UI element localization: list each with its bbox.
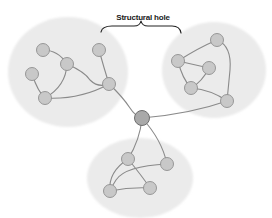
node-B3 — [104, 185, 117, 198]
node-B1 — [122, 153, 135, 166]
node-B2 — [161, 158, 174, 171]
node-L5 — [93, 44, 106, 57]
node-R3 — [203, 62, 216, 75]
node-R5 — [221, 95, 234, 108]
node-L2 — [61, 58, 74, 71]
node-L4 — [39, 92, 52, 105]
node-R2 — [172, 55, 185, 68]
node-R4 — [185, 82, 198, 95]
broker-node — [135, 111, 150, 126]
cluster-bottom — [87, 138, 193, 218]
structural-hole-brace — [101, 21, 181, 33]
node-R1 — [211, 34, 224, 47]
network-graph — [0, 0, 272, 218]
curly-brace — [101, 21, 181, 33]
node-L1 — [37, 44, 50, 57]
node-B4 — [144, 182, 157, 195]
node-L3 — [26, 68, 39, 81]
structural-hole-label: Structural hole — [116, 13, 169, 22]
network-diagram: Structural hole — [0, 0, 272, 218]
node-L6 — [103, 78, 116, 91]
